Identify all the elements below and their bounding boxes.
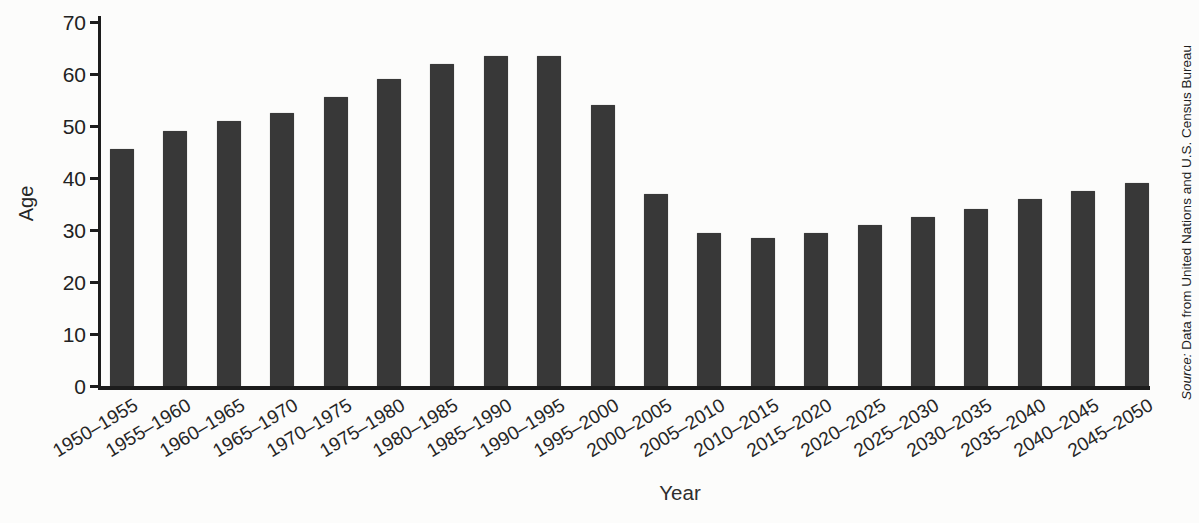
bar-2025–2030 — [911, 217, 935, 386]
bar-2045–2050 — [1125, 183, 1149, 386]
y-axis-title: Age — [15, 178, 38, 230]
x-axis-title: Year — [560, 481, 800, 505]
y-tick-mark — [90, 21, 99, 24]
bar-1960–1965 — [217, 121, 241, 386]
bar-2005–2010 — [697, 233, 721, 386]
x-axis-line — [98, 386, 1150, 390]
source-text: Data from United Nations and U.S. Census… — [1179, 45, 1194, 353]
bar-2035–2040 — [1018, 199, 1042, 386]
bar-1950–1955 — [110, 149, 134, 386]
source-label: Source: — [1179, 353, 1194, 400]
bar-1980–1985 — [430, 64, 454, 386]
bar-2010–2015 — [751, 238, 775, 386]
source-note: Source: Data from United Nations and U.S… — [1179, 32, 1194, 414]
y-tick-mark — [90, 177, 99, 180]
bar-1990–1995 — [537, 56, 561, 386]
bar-1975–1980 — [377, 79, 401, 386]
y-tick-mark — [90, 229, 99, 232]
bar-1995–2000 — [591, 105, 615, 386]
y-tick-label: 10 — [42, 324, 86, 345]
y-tick-mark — [90, 125, 99, 128]
bar-2040–2045 — [1071, 191, 1095, 386]
y-tick-label: 70 — [42, 12, 86, 33]
y-tick-label: 30 — [42, 220, 86, 241]
y-tick-mark — [90, 281, 99, 284]
y-tick-mark — [90, 385, 99, 388]
bar-2030–2035 — [964, 209, 988, 386]
y-tick-label: 50 — [42, 116, 86, 137]
bar-1985–1990 — [484, 56, 508, 386]
bar-chart-figure: 010203040506070 1950–19551955–19601960–1… — [0, 0, 1199, 523]
bar-2000–2005 — [644, 194, 668, 386]
y-tick-mark — [90, 73, 99, 76]
bar-1955–1960 — [163, 131, 187, 386]
bar-1970–1975 — [324, 97, 348, 386]
y-tick-label: 40 — [42, 168, 86, 189]
bar-1965–1970 — [270, 113, 294, 386]
y-tick-label: 0 — [42, 376, 86, 397]
y-tick-label: 60 — [42, 64, 86, 85]
bar-2020–2025 — [858, 225, 882, 386]
bar-2015–2020 — [804, 233, 828, 386]
y-tick-mark — [90, 333, 99, 336]
y-tick-label: 20 — [42, 272, 86, 293]
